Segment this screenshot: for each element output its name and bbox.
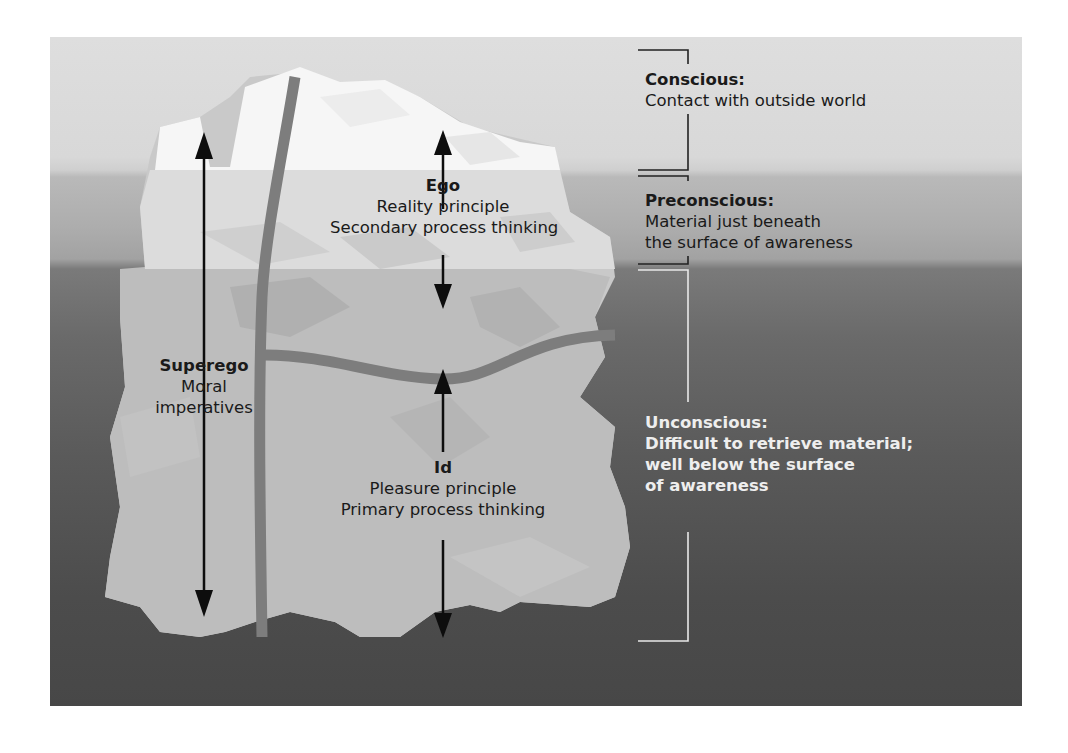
ego-title: Ego [350, 175, 536, 196]
id-line-1: Pleasure principle [350, 478, 536, 499]
superego-line-2: imperatives [154, 397, 254, 418]
id-line-2: Primary process thinking [330, 499, 556, 520]
superego-title: Superego [154, 355, 254, 376]
superego-line-1: Moral [154, 376, 254, 397]
conscious-title: Conscious: [645, 69, 866, 90]
preconscious-line-2: the surface of awareness [645, 232, 853, 253]
unconscious-line-2: well below the surface [645, 454, 913, 475]
conscious-line-1: Contact with outside world [645, 90, 866, 111]
id-title: Id [350, 457, 536, 478]
unconscious-line-3: of awareness [645, 475, 913, 496]
unconscious-title: Unconscious: [645, 412, 913, 433]
ego-label: Ego Reality principle Secondary process … [350, 175, 536, 238]
ego-line-2: Secondary process thinking [330, 217, 556, 238]
superego-label: Superego Moral imperatives [154, 355, 254, 418]
unconscious-line-1: Difficult to retrieve material; [645, 433, 913, 454]
preconscious-label: Preconscious: Material just beneath the … [645, 190, 853, 253]
iceberg-diagram: Ego Reality principle Secondary process … [50, 37, 1022, 706]
preconscious-line-1: Material just beneath [645, 211, 853, 232]
preconscious-title: Preconscious: [645, 190, 853, 211]
id-label: Id Pleasure principle Primary process th… [350, 457, 536, 520]
conscious-label: Conscious: Contact with outside world [645, 69, 866, 111]
unconscious-label: Unconscious: Difficult to retrieve mater… [645, 412, 913, 496]
ego-line-1: Reality principle [350, 196, 536, 217]
